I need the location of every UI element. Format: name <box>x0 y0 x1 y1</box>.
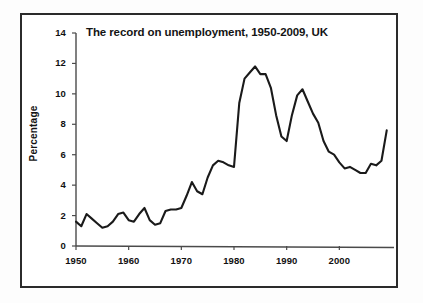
x-axis-tick-label: 1960 <box>109 255 149 266</box>
x-axis-tick-label: 1980 <box>214 255 254 266</box>
y-axis-tick-label: 0 <box>46 240 66 251</box>
x-axis-tick-label: 1970 <box>161 255 201 266</box>
unemployment-line-series <box>76 66 387 227</box>
x-axis-tick-label: 1990 <box>267 255 307 266</box>
x-axis-tick-label: 1950 <box>56 255 96 266</box>
figure-root: The record on unemployment, 1950-2009, U… <box>0 0 423 303</box>
y-axis-tick-label: 14 <box>46 27 66 38</box>
x-axis-tick-label: 2000 <box>319 255 359 266</box>
y-axis-tick-label: 6 <box>46 149 66 160</box>
y-axis-tick-label: 4 <box>46 179 66 190</box>
x-axis-line <box>76 246 394 248</box>
chart-axes <box>72 33 394 250</box>
y-axis-tick-label: 8 <box>46 118 66 129</box>
y-axis-tick-label: 2 <box>46 210 66 221</box>
y-axis-tick-label: 12 <box>46 57 66 68</box>
y-axis-tick-label: 10 <box>46 88 66 99</box>
